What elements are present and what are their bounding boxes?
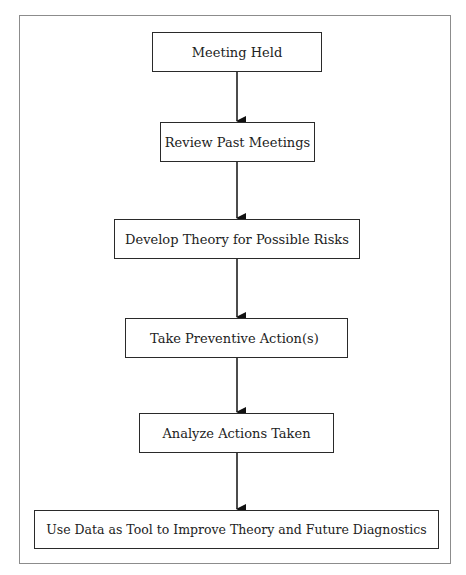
node-label: Review Past Meetings	[165, 135, 310, 150]
node-meeting-held: Meeting Held	[152, 32, 322, 72]
node-use-data-as-tool: Use Data as Tool to Improve Theory and F…	[34, 510, 439, 549]
flow-connectors	[0, 0, 466, 575]
node-label: Use Data as Tool to Improve Theory and F…	[46, 522, 427, 537]
node-label: Develop Theory for Possible Risks	[125, 232, 349, 247]
node-develop-theory: Develop Theory for Possible Risks	[114, 219, 360, 259]
node-analyze-actions: Analyze Actions Taken	[139, 413, 334, 453]
node-review-past-meetings: Review Past Meetings	[160, 122, 315, 162]
node-label: Take Preventive Action(s)	[150, 331, 319, 346]
node-label: Analyze Actions Taken	[162, 426, 310, 441]
node-take-preventive-actions: Take Preventive Action(s)	[125, 318, 348, 358]
node-label: Meeting Held	[192, 45, 282, 60]
